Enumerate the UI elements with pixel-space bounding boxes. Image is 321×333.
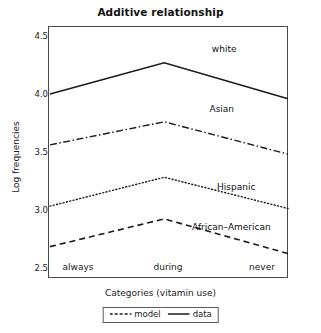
- legend-swatch-solid-icon: [168, 311, 190, 317]
- y-tick-label: 3.5: [22, 147, 48, 157]
- legend-swatch-dashed-icon: [109, 311, 131, 317]
- legend-entry-model: model: [109, 310, 160, 319]
- x-tick-label-never: never: [249, 262, 275, 272]
- legend-label-model: model: [134, 310, 160, 319]
- y-tick-label: 2.5: [22, 263, 48, 273]
- legend-label-data: data: [193, 310, 212, 319]
- chart-legend: model data: [102, 307, 219, 323]
- y-tick-label: 4.0: [22, 89, 48, 99]
- y-tick-label: 3.0: [22, 205, 48, 215]
- plot-area: white Asian Hispanic African–American: [48, 26, 288, 278]
- series-annotation-hispanic: Hispanic: [217, 182, 255, 192]
- chart-title: Additive relationship: [0, 6, 321, 18]
- x-tick-label-always: always: [63, 262, 94, 272]
- chart-figure: Additive relationship 4.5 4.0 3.5 3.0 2.…: [0, 0, 321, 333]
- x-axis-title: Categories (vitamin use): [0, 288, 321, 298]
- series-lines: [49, 27, 289, 279]
- y-axis-title: Log frequencies: [11, 97, 21, 217]
- y-tick-label: 4.5: [22, 31, 48, 41]
- series-annotation-asian: Asian: [210, 104, 235, 114]
- series-line-asian: [50, 122, 288, 154]
- series-annotation-white: white: [212, 44, 237, 54]
- legend-entry-data: data: [168, 310, 212, 319]
- series-line-white: [50, 63, 288, 99]
- x-tick-label-during: during: [153, 262, 182, 272]
- series-annotation-african-american: African–American: [192, 222, 271, 232]
